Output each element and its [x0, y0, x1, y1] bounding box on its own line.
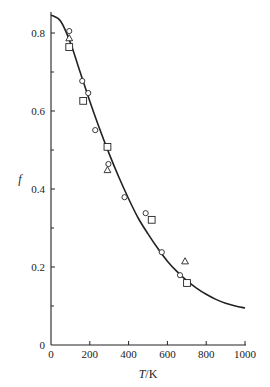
- circle-marker: [67, 28, 72, 33]
- y-axis-label: f: [18, 172, 23, 186]
- square-marker: [66, 44, 73, 51]
- circle-marker: [159, 250, 164, 255]
- data-points: [66, 28, 191, 286]
- triangle-marker: [182, 258, 189, 264]
- axes: 0200400600800100000.20.40.60.8: [31, 12, 256, 360]
- triangle-marker: [104, 166, 111, 172]
- x-tick-label: 400: [120, 348, 137, 360]
- circle-marker: [106, 161, 111, 166]
- circle-marker: [122, 195, 127, 200]
- x-tick-label: 800: [198, 348, 215, 360]
- circle-marker: [80, 78, 85, 83]
- circle-marker: [93, 128, 98, 133]
- theory-curve: [51, 15, 245, 308]
- circle-marker: [86, 90, 91, 95]
- x-tick-label: 600: [159, 348, 176, 360]
- x-tick-label: 200: [82, 348, 99, 360]
- y-tick-label: 0.4: [31, 183, 45, 195]
- theory-curve-line: [51, 15, 245, 308]
- square-marker: [148, 216, 155, 223]
- x-tick-label: 1000: [234, 348, 257, 360]
- y-tick-label: 0.8: [31, 27, 45, 39]
- circle-marker: [177, 273, 182, 278]
- y-tick-label: 0: [40, 339, 46, 351]
- square-marker: [104, 143, 111, 150]
- x-tick-label: 0: [48, 348, 54, 360]
- x-axis-label: T/K: [139, 367, 158, 381]
- square-marker: [184, 280, 191, 287]
- circle-marker: [143, 211, 148, 216]
- y-tick-label: 0.6: [31, 105, 45, 117]
- chart: 0200400600800100000.20.40.60.8 T/K f: [0, 0, 270, 387]
- square-marker: [80, 97, 87, 104]
- y-tick-label: 0.2: [31, 261, 45, 273]
